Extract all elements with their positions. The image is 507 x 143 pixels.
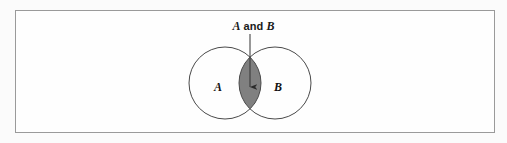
caption-set-b-label: B: [266, 19, 274, 33]
intersection-caption: AandB: [0, 20, 507, 33]
caption-conjunction-label: and: [244, 20, 264, 32]
figure-root: AandB A B: [0, 0, 507, 143]
caption-set-a-label: A: [232, 19, 240, 33]
set-a-region-label: A: [208, 81, 228, 93]
set-b-region-label: B: [268, 81, 288, 93]
